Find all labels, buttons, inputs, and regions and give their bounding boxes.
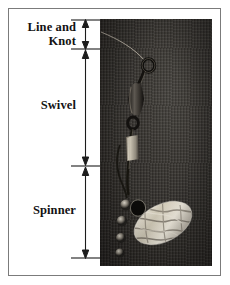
label-swivel: Swivel [8,98,76,112]
label-spinner: Spinner [8,203,76,217]
label-line-and-knot-line1: Line and [8,20,76,34]
spinner-parts-figure: Line and Knot Swivel Spinner [0,0,230,285]
label-line-and-knot: Line and Knot [8,20,76,48]
fishing-spinner-photograph [100,19,212,266]
label-line-and-knot-line2: Knot [8,34,76,48]
photo-vignette [100,19,212,266]
